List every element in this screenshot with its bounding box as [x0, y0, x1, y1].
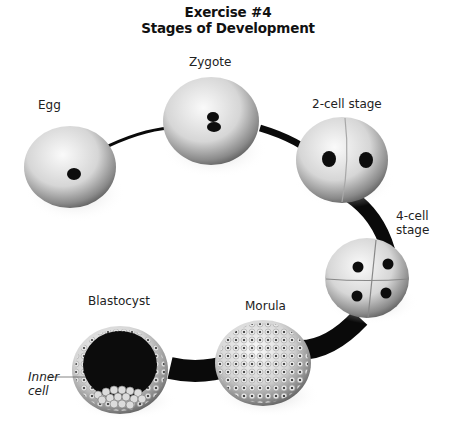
label-inner-cell: Inner cell — [28, 370, 59, 398]
label-zygote: Zygote — [189, 55, 231, 69]
label-four-cell-line2: stage — [396, 223, 429, 237]
four-cell-stage — [325, 238, 418, 324]
label-two-cell: 2-cell stage — [312, 97, 382, 111]
label-egg: Egg — [38, 98, 61, 112]
two-cell-stage — [295, 117, 395, 208]
egg-cell — [24, 126, 125, 222]
label-inner-cell-line2: cell — [28, 384, 59, 398]
label-morula: Morula — [245, 299, 286, 313]
zygote-cell — [163, 77, 267, 178]
blastocyst — [48, 326, 177, 420]
label-inner-cell-line1: Inner — [28, 370, 59, 384]
morula — [215, 320, 320, 417]
label-four-cell-line1: 4-cell — [396, 209, 429, 223]
label-blastocyst: Blastocyst — [88, 294, 150, 308]
label-four-cell: 4-cell stage — [396, 209, 429, 237]
nucleus-icon — [67, 168, 81, 180]
